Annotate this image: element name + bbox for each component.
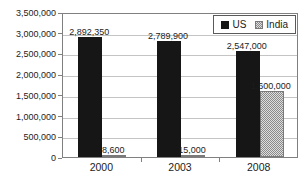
bar-us-2003 <box>157 41 181 157</box>
y-tick-label: 2,500,000 <box>0 49 56 59</box>
y-tick-label: 1,000,000 <box>0 112 56 122</box>
x-axis-label-2003: 2003 <box>154 161 206 173</box>
y-tick-label: 3,000,000 <box>0 29 56 39</box>
y-tick-label: 0 <box>0 153 56 163</box>
y-tick-label: 500,000 <box>0 132 56 142</box>
y-tick-label: 1,500,000 <box>0 91 56 101</box>
legend-label-india: India <box>266 19 288 30</box>
legend: US India <box>213 15 296 34</box>
bar-us-2000 <box>78 37 102 157</box>
us-series-swatch-icon <box>221 21 229 29</box>
x-axis-label-2000: 2000 <box>75 161 127 173</box>
bar-india-2003 <box>181 155 205 157</box>
y-tick-label: 2,000,000 <box>0 70 56 80</box>
bar-us-2008 <box>236 51 260 157</box>
bar-chart: 0500,0001,000,0001,500,0002,000,0002,500… <box>0 0 307 184</box>
gridline <box>63 35 297 36</box>
y-tick-label: 3,500,000 <box>0 8 56 18</box>
x-tick-mark <box>219 158 220 162</box>
legend-item-india: India <box>255 19 288 30</box>
legend-label-us: US <box>232 19 246 30</box>
x-axis-label-2008: 2008 <box>233 161 285 173</box>
x-tick-mark <box>141 158 142 162</box>
india-series-swatch-icon <box>255 21 263 29</box>
bar-india-2008 <box>260 91 284 157</box>
plot-area <box>62 13 298 158</box>
legend-item-us: US <box>221 19 246 30</box>
bar-india-2000 <box>102 155 126 157</box>
